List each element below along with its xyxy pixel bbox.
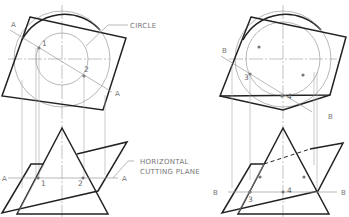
cone-front: [17, 128, 108, 214]
cutting-label-a-left: A: [11, 21, 16, 29]
plane-label-a-left: A: [2, 175, 7, 183]
point-top: [257, 45, 260, 48]
callout-cutting-plane: CUTTING PLANE: [140, 168, 200, 176]
point-label-4-front: 4: [287, 186, 292, 195]
point-front: [302, 175, 305, 178]
point-label-3-top: 3: [244, 73, 249, 82]
plane-label-b-left: B: [213, 189, 218, 197]
cutting-label-b-left: B: [222, 47, 227, 55]
point-label-2-top: 2: [84, 65, 89, 74]
plane-label-b-right: B: [341, 189, 346, 197]
point-label-2-front: 2: [78, 179, 83, 188]
point-label-3-front: 3: [248, 195, 253, 204]
callout-horizontal: HORIZONTAL: [140, 158, 189, 166]
point-label-4-top: 4: [287, 92, 292, 101]
point-4-front: [281, 190, 284, 193]
cutting-line-b: [221, 56, 312, 112]
point-top: [301, 73, 304, 76]
cutting-line-a: [10, 30, 112, 92]
point-label-1-top: 1: [42, 39, 47, 48]
right-view: B B 3 4 B B 3 4: [213, 5, 346, 217]
cutting-label-b-right: B: [328, 113, 333, 121]
tilted-plane-top-lower: [220, 95, 330, 110]
left-view: A A 1 2 CIRCLE A A 1 2 HORIZONTAL CUTT: [2, 5, 200, 217]
plane-label-a-right: A: [122, 175, 127, 183]
point-1-front: [36, 176, 39, 179]
point-front: [258, 175, 261, 178]
tilted-plane-front-outline: [2, 142, 127, 213]
intersection-diagram: A A 1 2 CIRCLE A A 1 2 HORIZONTAL CUTT: [0, 0, 349, 217]
tilted-plane-front-outline: [222, 143, 343, 213]
point-label-1-front: 1: [41, 179, 46, 188]
point-4-top: [280, 94, 283, 97]
cutting-label-a-right: A: [115, 90, 120, 98]
callout-circle: CIRCLE: [130, 22, 156, 30]
tilted-plane-top: [2, 17, 126, 110]
point-3-front: [248, 190, 251, 193]
